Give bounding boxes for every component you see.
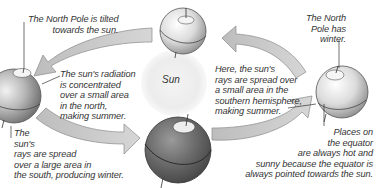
pointer-radiation bbox=[42, 76, 60, 84]
label-radiation-concentrated: The sun's radiation is concentrated over… bbox=[60, 69, 135, 122]
label-north-pole-winter: The North Pole has winter. bbox=[296, 13, 346, 45]
label-southern-summer: Here, the sun's rays are spread over a s… bbox=[215, 64, 302, 117]
globe-top bbox=[160, 8, 206, 58]
label-north-pole-tilted: The North Pole is tilted towards the sun… bbox=[28, 14, 119, 35]
label-equator: Places on the equator are always hot and… bbox=[220, 127, 373, 180]
globe-left bbox=[0, 68, 41, 128]
sun-label: Sun bbox=[162, 74, 180, 85]
label-rays-spread-south: The sun's rays are spread over a large a… bbox=[14, 128, 124, 181]
globe-bottom bbox=[145, 114, 211, 188]
seasons-diagram: Sun The North Pole is tilted towards the… bbox=[0, 0, 378, 188]
